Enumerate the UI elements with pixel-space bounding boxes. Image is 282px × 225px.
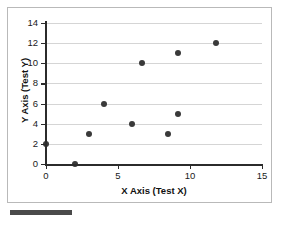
x-axis-tick-label: 5 bbox=[103, 170, 133, 181]
scatter-plot-figure: 051015 02468101214 X Axis (Test X) Y Axi… bbox=[0, 0, 282, 225]
gridline bbox=[46, 104, 262, 105]
y-axis-tick bbox=[41, 63, 46, 64]
y-axis-tick bbox=[41, 43, 46, 44]
gridline bbox=[46, 63, 262, 64]
x-axis-tick bbox=[118, 164, 119, 169]
gridline bbox=[46, 144, 262, 145]
y-axis-tick bbox=[41, 23, 46, 24]
x-axis-tick-label: 0 bbox=[31, 170, 61, 181]
data-point bbox=[129, 121, 135, 127]
y-axis-tick bbox=[41, 144, 46, 145]
x-axis-line bbox=[45, 164, 263, 166]
footer-rule bbox=[10, 210, 72, 215]
x-axis-tick-label: 15 bbox=[247, 170, 277, 181]
data-point bbox=[139, 60, 145, 66]
gridline bbox=[46, 23, 262, 24]
y-axis-title: Y Axis (Test Y) bbox=[19, 16, 30, 166]
x-axis-tick bbox=[46, 164, 47, 169]
data-point bbox=[213, 40, 219, 46]
gridline bbox=[46, 83, 262, 84]
x-axis-tick-label: 10 bbox=[175, 170, 205, 181]
data-point bbox=[175, 111, 181, 117]
data-point bbox=[175, 50, 181, 56]
y-axis-tick bbox=[41, 124, 46, 125]
y-axis-tick bbox=[41, 104, 46, 105]
gridline bbox=[46, 43, 262, 44]
x-axis-title: X Axis (Test X) bbox=[46, 185, 262, 196]
data-point bbox=[86, 131, 92, 137]
gridline bbox=[46, 124, 262, 125]
data-point bbox=[165, 131, 171, 137]
data-point bbox=[101, 101, 107, 107]
plot-area bbox=[46, 23, 262, 164]
y-axis-tick bbox=[41, 83, 46, 84]
x-axis-tick bbox=[262, 164, 263, 169]
y-axis-tick bbox=[41, 164, 46, 165]
x-axis-tick bbox=[190, 164, 191, 169]
